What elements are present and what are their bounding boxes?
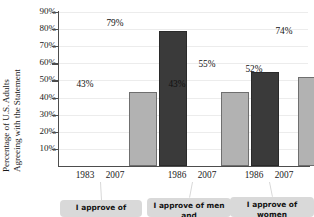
y-axis-tick-mark bbox=[52, 12, 58, 13]
bar-value-label: 43% bbox=[65, 79, 105, 89]
bar bbox=[221, 92, 249, 166]
y-axis-tick-labels: 90%80%70%60%50%40%30%20%10% bbox=[29, 0, 56, 217]
y-axis-tick-mark bbox=[52, 80, 58, 81]
x-axis-tick-label: 2007 bbox=[97, 170, 133, 180]
bar bbox=[159, 31, 187, 166]
bar bbox=[298, 77, 314, 166]
callout-leader-line bbox=[100, 182, 102, 200]
y-axis-title: Percentage of U.S. Adults Agreeing with … bbox=[0, 0, 30, 180]
y-axis-line bbox=[58, 11, 59, 167]
bar-chart-figure: Percentage of U.S. Adults Agreeing with … bbox=[0, 0, 314, 217]
bar-value-label: 79% bbox=[95, 18, 135, 28]
y-axis-tick-mark bbox=[52, 63, 58, 64]
bar-value-label: 55% bbox=[187, 59, 227, 69]
x-axis-tick-label: 2007 bbox=[266, 170, 302, 180]
callout-label: I approve of women bbox=[230, 197, 314, 217]
y-axis-tick-mark bbox=[52, 149, 58, 150]
x-axis-tick-label: 2007 bbox=[189, 170, 225, 180]
bar bbox=[251, 72, 279, 166]
y-axis-title-line-2: Agreeing with the Statement bbox=[12, 69, 22, 172]
callout-label: I approve of bbox=[60, 200, 142, 217]
y-axis-tick-mark bbox=[52, 29, 58, 30]
bar-value-label: 43% bbox=[157, 79, 197, 89]
bar-value-label: 74% bbox=[264, 26, 304, 36]
bar-value-label: 52% bbox=[234, 64, 274, 74]
bar bbox=[129, 92, 157, 166]
x-axis-line bbox=[58, 166, 310, 167]
callout-label: I approve of men and bbox=[147, 198, 231, 217]
callout-leader-line bbox=[189, 182, 193, 198]
y-axis-tick-mark bbox=[52, 132, 58, 133]
gridline bbox=[58, 12, 308, 13]
y-axis-tick-mark bbox=[52, 46, 58, 47]
y-axis-tick-mark bbox=[52, 115, 58, 116]
y-axis-tick-mark bbox=[52, 98, 58, 99]
callout-leader-line bbox=[269, 182, 273, 197]
y-axis-title-line-1: Percentage of U.S. Adults bbox=[1, 79, 11, 172]
